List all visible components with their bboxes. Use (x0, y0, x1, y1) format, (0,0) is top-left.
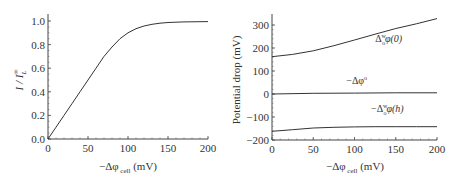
right-x-axis-label: −Δφ cell (mV) (326, 160, 384, 175)
annotation-interface-h: −Δwoφ(h) (371, 103, 404, 116)
y-tick-label: 0.6 (31, 62, 45, 74)
series-line (48, 22, 208, 139)
y-tick-label: 200 (253, 42, 270, 54)
figure: 0501001502000.00.20.40.60.81.0I / I∞L−Δφ… (0, 0, 457, 184)
right-y-axis-label: Potential drop (mV) (230, 35, 243, 124)
y-tick-label: 0.8 (31, 39, 45, 51)
x-tick-label: 200 (200, 142, 217, 154)
y-tick-label: 0 (264, 88, 270, 100)
series-line (272, 93, 437, 94)
y-tick-label: 1.0 (31, 15, 45, 27)
right-chart: 050100150200−200−1000100200300Potential … (230, 14, 446, 175)
x-tick-label: 150 (388, 143, 405, 155)
annotation-delta-phi-o: −Δφo (346, 75, 367, 86)
x-tick-label: 200 (429, 143, 446, 155)
x-tick-label: 50 (83, 142, 95, 154)
y-tick-label: 0.4 (31, 86, 45, 98)
left-y-axis-label: I / I∞L (12, 70, 28, 92)
x-tick-label: 100 (346, 143, 363, 155)
series-line (272, 19, 437, 57)
x-tick-label: 100 (120, 142, 137, 154)
x-tick-label: 50 (308, 143, 320, 155)
x-tick-label: 0 (45, 142, 51, 154)
y-tick-label: 0.2 (31, 109, 45, 121)
x-tick-label: 150 (160, 142, 177, 154)
left-x-axis-label: −Δφ cell (mV) (99, 160, 157, 175)
left-chart: 0501001502000.00.20.40.60.81.0I / I∞L−Δφ… (12, 14, 217, 175)
y-tick-label: 300 (253, 19, 270, 31)
y-tick-label: −100 (246, 111, 269, 123)
y-tick-label: 0.0 (31, 133, 45, 145)
annotation-interface-0: Δwoφ(0) (375, 33, 403, 46)
y-tick-label: −200 (246, 134, 269, 146)
x-tick-label: 0 (269, 143, 275, 155)
series-line (272, 127, 437, 132)
y-tick-label: 100 (253, 65, 270, 77)
